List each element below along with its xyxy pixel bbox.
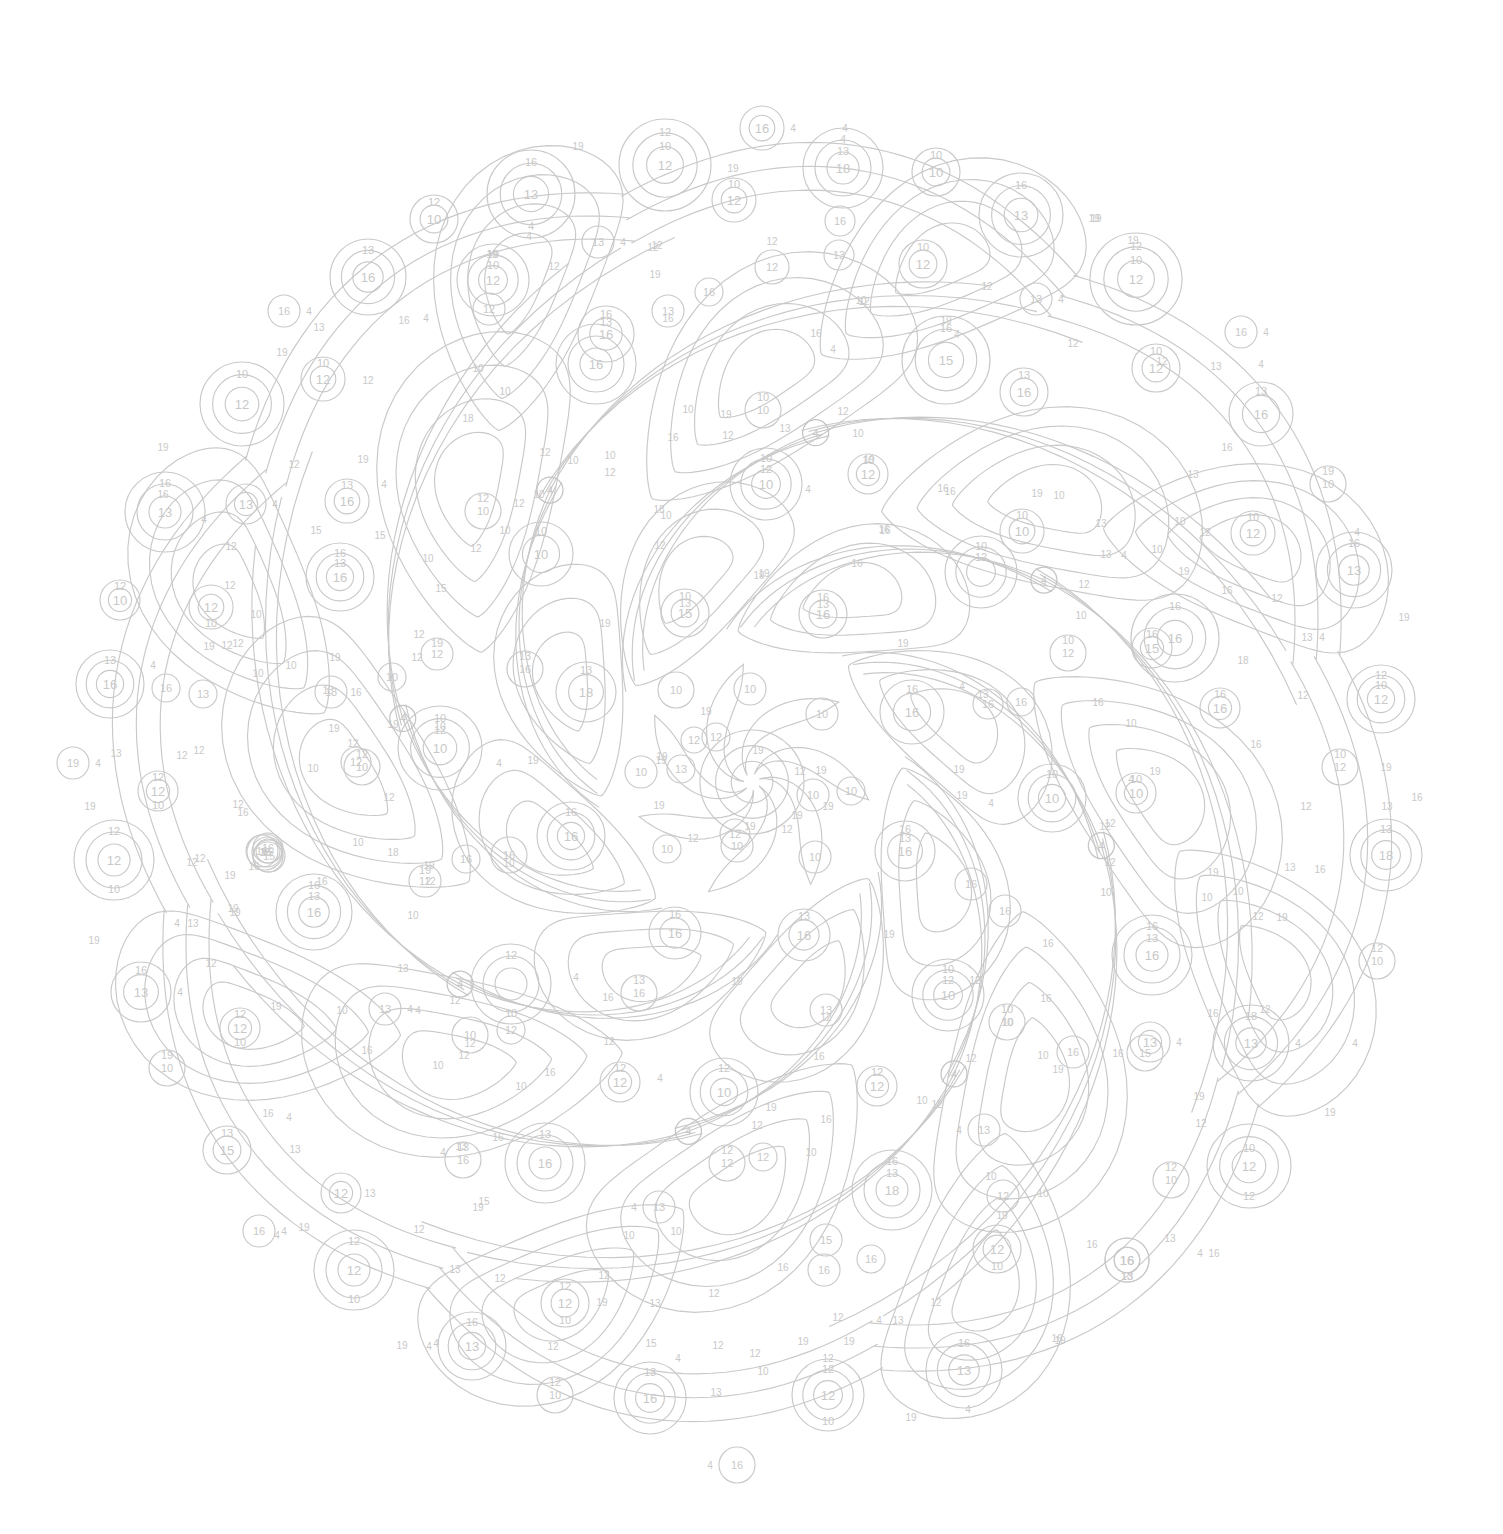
rosette-number: 10 <box>845 785 857 797</box>
rosette-number: 12 <box>558 1296 572 1311</box>
rosette-number: 16 <box>1015 179 1027 191</box>
rosette: 121210 <box>74 820 154 900</box>
rosette-number: 16 <box>160 682 172 694</box>
loose-number: 16 <box>262 1108 274 1119</box>
loose-number: 19 <box>328 723 340 734</box>
loose-number: 12 <box>1259 1004 1271 1015</box>
loose-number: 16 <box>1092 697 1104 708</box>
rosette-number: 12 <box>108 825 120 837</box>
loose-number: 4 <box>150 660 156 671</box>
loose-number: 16 <box>1221 442 1233 453</box>
loose-number: 16 <box>157 489 169 500</box>
loose-number: 10 <box>422 553 434 564</box>
rosette-number: 16 <box>886 1155 898 1167</box>
loose-number: 12 <box>687 833 699 844</box>
loose-number: 12 <box>548 261 560 272</box>
rosette-number: 4 <box>620 237 626 248</box>
loose-number: 4 <box>1121 550 1127 561</box>
rosette-number: 10 <box>503 858 515 869</box>
rosette-number: 13 <box>362 244 374 256</box>
rosette-number: 12 <box>710 731 722 743</box>
loose-number: 10 <box>916 1095 928 1106</box>
rosette-number: 16 <box>797 928 811 943</box>
loose-number: 10 <box>1037 1050 1049 1061</box>
rosette-number: 10 <box>348 1293 360 1305</box>
rosette-number: 10 <box>759 477 773 492</box>
loose-number: 12 <box>347 738 359 749</box>
loose-number: 4 <box>965 1404 971 1415</box>
rosette: 161316 <box>306 543 374 611</box>
loose-number: 16 <box>1207 1008 1219 1019</box>
loose-number: 4 <box>526 231 532 242</box>
rosette-number: 10 <box>816 708 828 720</box>
rosette-number: 13 <box>886 1167 898 1179</box>
rosette-number: 16 <box>1145 948 1159 963</box>
loose-number: 19 <box>298 1222 310 1233</box>
rosette-number: 4 <box>281 1226 287 1237</box>
loose-number: 10 <box>250 609 262 620</box>
rosette-number: 10 <box>487 259 499 271</box>
rosette-number: 13 <box>1380 823 1392 835</box>
loose-number: 4 <box>573 972 579 983</box>
rosette-number: 12 <box>234 1008 246 1020</box>
rosette-number: 12 <box>559 1280 571 1292</box>
loose-number: 12 <box>470 543 482 554</box>
loose-number: 4 <box>174 918 180 929</box>
loose-number: 4 <box>415 1005 421 1016</box>
loose-number: 12 <box>458 1050 470 1061</box>
rosette-number: 10 <box>1130 254 1142 266</box>
loose-number: 10 <box>499 525 511 536</box>
loose-number: 16 <box>492 1132 504 1143</box>
rosette: 121012 <box>1090 233 1182 325</box>
loose-number: 16 <box>1221 585 1233 596</box>
loose-number: 19 <box>883 929 895 940</box>
loose-number: 19 <box>88 935 100 946</box>
rosette-number: 12 <box>942 974 954 986</box>
loose-number: 19 <box>357 454 369 465</box>
rosette-number: 13 <box>1018 369 1030 381</box>
loose-number: 10 <box>805 1147 817 1158</box>
rosette-number: 12 <box>348 1235 360 1247</box>
loose-number: 16 <box>1086 1239 1098 1250</box>
rosette-number: 13 <box>104 654 116 666</box>
loose-number: 19 <box>203 641 215 652</box>
loose-number: 12 <box>513 498 525 509</box>
rosette-number: 16 <box>965 878 977 890</box>
rosette-number: 13 <box>633 974 645 986</box>
loose-number: 12 <box>193 745 205 756</box>
loose-number: 12 <box>751 1120 763 1131</box>
rosette-number: 16 <box>1235 326 1247 338</box>
loose-number: 4 <box>440 1147 446 1158</box>
rosette-number: 16 <box>350 687 362 698</box>
loose-number: 19 <box>1127 235 1139 246</box>
loose-number: 19 <box>1088 213 1100 224</box>
loose-number: 10 <box>855 295 867 306</box>
loose-number: 19 <box>649 269 661 280</box>
loose-number: 4 <box>1258 359 1264 370</box>
node-number: 4 <box>1041 574 1047 586</box>
rosette-number: 12 <box>114 580 126 592</box>
rosette-number: 16 <box>361 270 375 285</box>
loose-number: 13 <box>110 748 122 759</box>
loose-number: 10 <box>1100 887 1112 898</box>
rosette-number: 12 <box>428 196 440 208</box>
loose-number: 12 <box>232 799 244 810</box>
rosette-number: 12 <box>1062 647 1074 659</box>
loose-number: 12 <box>794 766 806 777</box>
rosette-number: 13 <box>519 650 531 662</box>
rosette-number: 13 <box>675 763 687 775</box>
loose-number: 12 <box>781 824 793 835</box>
loose-number: 10 <box>515 1081 527 1092</box>
loose-number: 12 <box>1104 857 1116 868</box>
loose-number: 19 <box>897 638 909 649</box>
loose-number: 10 <box>682 404 694 415</box>
rosette-number: 13 <box>524 187 538 202</box>
rosette-number: 16 <box>865 1253 877 1265</box>
rosette-number: 16 <box>668 926 682 941</box>
loose-number: 16 <box>316 876 328 887</box>
rosette-number: 12 <box>916 257 930 272</box>
loose-number: 12 <box>837 406 849 417</box>
loose-number: 19 <box>1178 566 1190 577</box>
loose-number: 10 <box>336 1005 348 1016</box>
coloring-page-canvas: 44444444 1210121613416441318101016131210… <box>0 0 1503 1534</box>
